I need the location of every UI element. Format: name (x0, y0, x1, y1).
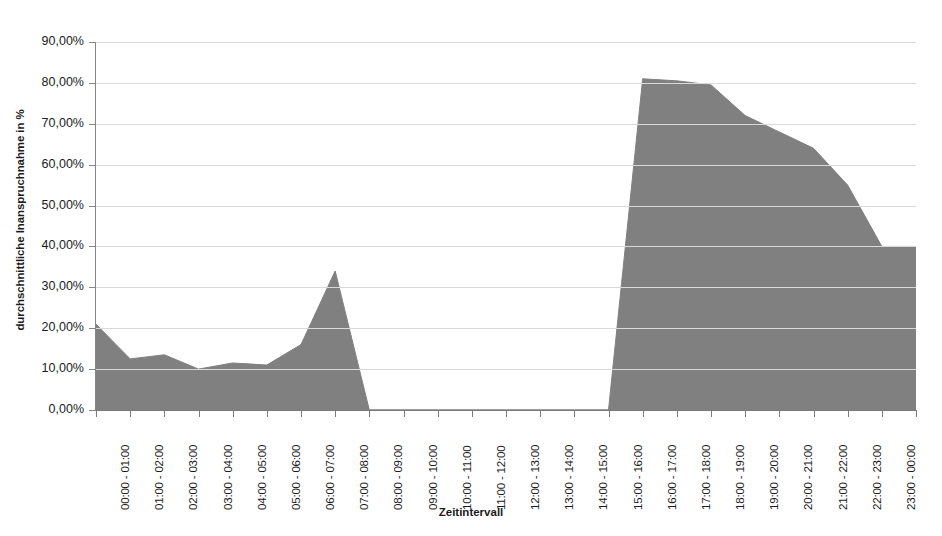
x-tick-label: 21:00 - 22:00 (825, 418, 839, 518)
y-tick-mark (89, 42, 96, 43)
y-tick-mark (89, 246, 96, 247)
x-tick-label-text: 20:00 - 21:00 (802, 418, 814, 510)
x-tick-label: 04:00 - 05:00 (244, 418, 258, 518)
x-tick-label: 13:00 - 14:00 (551, 418, 565, 518)
x-tick-mark (848, 411, 849, 417)
x-tick-label: 06:00 - 07:00 (312, 418, 326, 518)
x-axis-title: Zeitintervall (0, 506, 942, 518)
x-tick-label-text: 03:00 - 04:00 (222, 418, 234, 510)
x-tick-label-text: 21:00 - 22:00 (837, 418, 849, 510)
x-tick-label: 05:00 - 06:00 (278, 418, 292, 518)
x-tick-mark (233, 411, 234, 417)
plot-area (96, 42, 916, 410)
x-tick-label-text: 17:00 - 18:00 (700, 418, 712, 510)
x-tick-label: 15:00 - 16:00 (620, 418, 634, 518)
x-tick-label: 14:00 - 15:00 (585, 418, 599, 518)
y-tick-mark (89, 328, 96, 329)
x-tick-label: 00:00 - 01:00 (107, 418, 121, 518)
x-tick-label: 09:00 - 10:00 (415, 418, 429, 518)
y-tick-mark (89, 369, 96, 370)
y-tick-label: 90,00% (12, 34, 84, 48)
x-tick-label-text: 12:00 - 13:00 (529, 418, 541, 510)
x-tick-label-text: 16:00 - 17:00 (666, 418, 678, 510)
x-tick-label: 23:00 - 00:00 (893, 418, 907, 518)
y-tick-mark (89, 410, 96, 411)
y-axis-tick-labels: 90,00%80,00%70,00%60,00%50,00%40,00%30,0… (6, 0, 84, 536)
y-tick-mark (89, 83, 96, 84)
x-tick-label: 18:00 - 19:00 (722, 418, 736, 518)
gridline (96, 165, 916, 166)
x-tick-mark (540, 411, 541, 417)
gridline (96, 42, 916, 43)
x-tick-label: 20:00 - 21:00 (790, 418, 804, 518)
x-tick-label-text: 05:00 - 06:00 (290, 418, 302, 510)
x-tick-label: 22:00 - 23:00 (859, 418, 873, 518)
x-tick-label-text: 19:00 - 20:00 (768, 418, 780, 510)
x-tick-mark (472, 411, 473, 417)
gridline (96, 83, 916, 84)
x-tick-mark (301, 411, 302, 417)
gridline (96, 328, 916, 329)
area-series-polygon (96, 79, 916, 410)
x-tick-mark (199, 411, 200, 417)
y-tick-mark (89, 206, 96, 207)
x-tick-label: 11:00 - 12:00 (483, 418, 497, 518)
x-tick-mark (369, 411, 370, 417)
x-tick-label-text: 15:00 - 16:00 (632, 418, 644, 510)
x-tick-label-text: 04:00 - 05:00 (256, 418, 268, 510)
y-tick-mark (89, 124, 96, 125)
x-tick-mark (130, 411, 131, 417)
y-tick-label: 80,00% (12, 75, 84, 89)
gridline (96, 287, 916, 288)
x-tick-label-text: 13:00 - 14:00 (563, 418, 575, 510)
x-tick-label-text: 01:00 - 02:00 (153, 418, 165, 510)
x-tick-mark (438, 411, 439, 417)
gridline (96, 124, 916, 125)
x-tick-mark (916, 411, 917, 417)
y-tick-mark (89, 287, 96, 288)
x-tick-label: 17:00 - 18:00 (688, 418, 702, 518)
y-tick-label: 70,00% (12, 116, 84, 130)
gridline (96, 246, 916, 247)
x-tick-mark (96, 411, 97, 417)
x-tick-mark (643, 411, 644, 417)
area-series (96, 42, 916, 410)
x-tick-label: 03:00 - 04:00 (210, 418, 224, 518)
x-tick-mark (267, 411, 268, 417)
x-tick-label: 08:00 - 09:00 (380, 418, 394, 518)
x-tick-label-text: 07:00 - 08:00 (358, 418, 370, 510)
x-tick-label: 19:00 - 20:00 (756, 418, 770, 518)
y-tick-label: 10,00% (12, 361, 84, 375)
x-tick-label-text: 02:00 - 03:00 (187, 418, 199, 510)
x-tick-label-text: 00:00 - 01:00 (119, 418, 131, 510)
x-tick-label: 07:00 - 08:00 (346, 418, 360, 518)
x-tick-mark (711, 411, 712, 417)
chart-container: durchschnittliche Inanspruchnahme in % 9… (0, 0, 942, 536)
gridline (96, 369, 916, 370)
y-tick-mark (89, 165, 96, 166)
x-tick-label: 01:00 - 02:00 (141, 418, 155, 518)
x-tick-label-text: 10:00 - 11:00 (461, 418, 473, 510)
x-tick-label: 10:00 - 11:00 (449, 418, 463, 518)
x-tick-mark (609, 411, 610, 417)
x-tick-mark (404, 411, 405, 417)
x-tick-mark (164, 411, 165, 417)
x-tick-mark (882, 411, 883, 417)
x-tick-label-text: 18:00 - 19:00 (734, 418, 746, 510)
x-tick-label-text: 06:00 - 07:00 (324, 418, 336, 510)
x-tick-label-text: 22:00 - 23:00 (871, 418, 883, 510)
x-tick-mark (574, 411, 575, 417)
x-tick-mark (814, 411, 815, 417)
x-tick-mark (779, 411, 780, 417)
x-tick-label-text: 08:00 - 09:00 (392, 418, 404, 510)
x-tick-mark (506, 411, 507, 417)
x-tick-label: 16:00 - 17:00 (654, 418, 668, 518)
y-tick-label: 20,00% (12, 320, 84, 334)
y-tick-label: 40,00% (12, 238, 84, 252)
x-tick-label-text: 14:00 - 15:00 (597, 418, 609, 510)
gridline (96, 206, 916, 207)
x-tick-mark (335, 411, 336, 417)
x-tick-mark (745, 411, 746, 417)
y-tick-label: 50,00% (12, 198, 84, 212)
y-tick-label: 0,00% (12, 402, 84, 416)
